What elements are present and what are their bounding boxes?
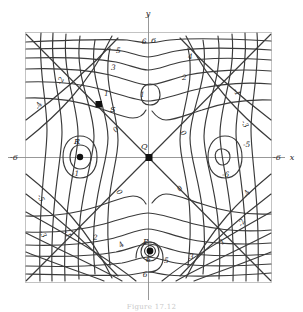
- figure-root: 6 5 3 1 4 2 1 -2 -4 -5 -3 -1 -1 -3 -5 -6…: [0, 0, 303, 312]
- point-S-marker[interactable]: [96, 101, 103, 108]
- point-R-level: -1: [72, 169, 79, 178]
- tick-y-top-6: 6: [151, 36, 156, 45]
- label-diag-0-upper-left: 0: [111, 125, 121, 135]
- axis-label-x: x: [290, 153, 295, 162]
- label-top-closed-1: 1: [140, 90, 145, 99]
- label-right-neg5: -5: [243, 140, 250, 149]
- label-top-6: 6: [142, 37, 147, 46]
- label-top-1: 1: [104, 89, 109, 98]
- label-bottom-2: 2: [92, 233, 98, 242]
- label-right-neg3: -3: [239, 119, 250, 130]
- label-left-neg4: -4: [33, 100, 44, 111]
- label-bottom-6-axis: 6: [143, 270, 148, 279]
- label-bottom-4: 4: [116, 239, 126, 250]
- label-top-2: 2: [181, 73, 187, 82]
- point-Q-marker[interactable]: [146, 154, 153, 161]
- label-diag-0-lower-left: 0: [115, 187, 125, 197]
- point-P-marker[interactable]: [147, 248, 154, 255]
- label-bottom-5: 5: [164, 256, 169, 265]
- label-left-neg3: -3: [37, 229, 48, 240]
- point-P-level: 6: [146, 255, 151, 264]
- tick-x-left-neg6: -6: [10, 153, 18, 162]
- axis-label-y: y: [145, 9, 151, 18]
- point-R-label: R: [73, 137, 80, 146]
- point-R-marker[interactable]: [77, 154, 83, 160]
- contour-plot: 6 5 3 1 4 2 1 -2 -4 -5 -3 -1 -1 -3 -5 -6…: [0, 0, 303, 312]
- label-right-neg6: -6: [222, 170, 229, 179]
- label-top-4: 4: [187, 52, 193, 61]
- figure-caption: Figure 17.12: [0, 303, 303, 312]
- point-S-label: S: [110, 105, 116, 114]
- label-top-5: 5: [116, 46, 121, 55]
- label-top-3: 3: [111, 63, 116, 72]
- point-Q-label: Q: [141, 142, 148, 151]
- point-P-label: P: [142, 237, 149, 246]
- axis-tick-labels: -6 -6 6 x y: [10, 9, 295, 162]
- label-bottom-3: 3: [189, 252, 194, 261]
- tick-x-right-neg6: -6: [273, 153, 281, 162]
